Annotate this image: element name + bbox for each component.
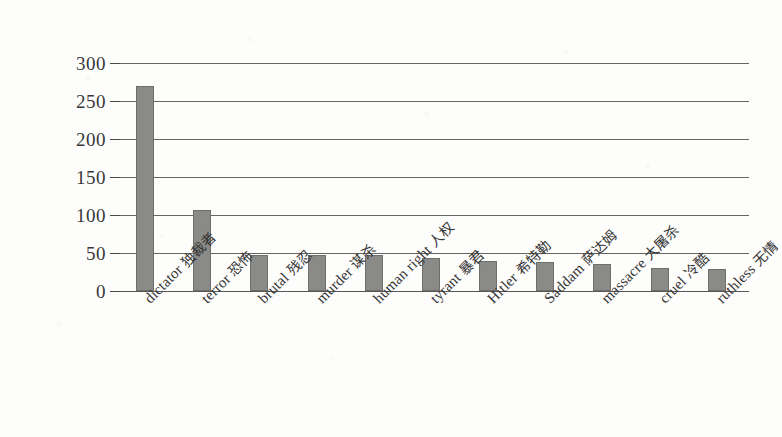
y-axis-tick-label: 0 [96, 282, 106, 301]
x-axis-label-chinese: 无情 [750, 238, 781, 269]
y-axis-tick-mark [110, 253, 120, 254]
y-axis-tick-mark [110, 177, 120, 178]
bar-chart-figure: 300250200150100500 dictator 独裁者terror 恐怖… [40, 16, 696, 421]
y-axis-tick-mark [110, 139, 120, 140]
y-axis-tick-mark [110, 101, 120, 102]
y-axis-tick-label: 100 [76, 206, 106, 225]
gridline [120, 63, 749, 64]
y-axis-tick-label: 250 [76, 92, 106, 111]
y-axis-tick-label: 150 [76, 168, 106, 187]
gridline [120, 101, 749, 102]
y-axis-tick-label: 50 [86, 244, 106, 263]
y-axis-tick-mark [110, 215, 120, 216]
x-axis-label-layer: dictator 独裁者terror 恐怖brutal 残忍murder 谋杀h… [120, 291, 749, 437]
gridline [120, 139, 749, 140]
y-axis-tick-label: 200 [76, 130, 106, 149]
y-axis-tick-mark [110, 291, 120, 292]
gridline [120, 215, 749, 216]
bar [136, 86, 154, 291]
y-axis-tick-mark [110, 63, 120, 64]
y-axis-tick-label: 300 [76, 54, 106, 73]
gridline [120, 177, 749, 178]
